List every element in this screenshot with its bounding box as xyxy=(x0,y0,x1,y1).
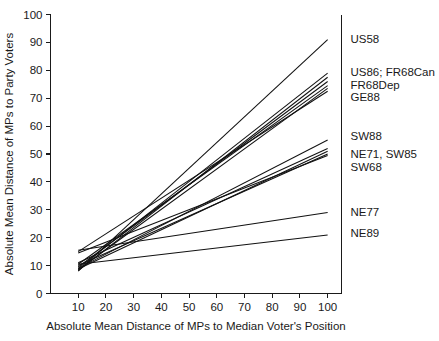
series-line-unlabeled-5 xyxy=(78,155,327,253)
series-label-ge88: GE88 xyxy=(351,91,380,103)
series-line-unlabeled-4 xyxy=(78,151,327,269)
series-label-sw88: SW88 xyxy=(351,130,382,142)
x-tick-labels: 102030405060708090100 xyxy=(72,301,337,313)
series-labels: US58US86; FR68CanFR68DepGE88SW88NE71, SW… xyxy=(351,33,435,239)
series-line-ne71-sw85 xyxy=(78,148,327,262)
y-tick-label: 10 xyxy=(30,260,43,272)
chart-figure: 0102030405060708090100 10203040506070809… xyxy=(0,0,439,341)
series-line-us58 xyxy=(78,40,327,272)
line-chart: 0102030405060708090100 10203040506070809… xyxy=(0,0,439,341)
x-tick-label: 90 xyxy=(294,301,307,313)
y-tick-label: 60 xyxy=(30,120,43,132)
y-axis-title: Absolute Mean Distance of MPs to Party V… xyxy=(3,33,15,276)
series-line-unlabeled-1 xyxy=(78,77,327,270)
x-tick-label: 80 xyxy=(266,301,279,313)
y-tick-label: 20 xyxy=(30,232,43,244)
y-tick-labels: 0102030405060708090100 xyxy=(23,9,42,300)
x-tick-label: 100 xyxy=(318,301,337,313)
x-tick-label: 70 xyxy=(238,301,251,313)
series-lines xyxy=(78,40,327,272)
series-line-unlabeled-2 xyxy=(78,86,327,265)
x-tick-label: 50 xyxy=(183,301,196,313)
x-tick-label: 10 xyxy=(72,301,85,313)
series-label-us86-fr68can: US86; FR68Can xyxy=(351,66,435,78)
axis-frame xyxy=(51,15,342,294)
x-tick-label: 30 xyxy=(127,301,140,313)
y-tick-label: 30 xyxy=(30,204,43,216)
series-label-us58: US58 xyxy=(351,33,380,45)
series-line-ne77 xyxy=(78,213,327,251)
y-tick-label: 50 xyxy=(30,148,43,160)
y-tick-label: 90 xyxy=(30,36,43,48)
y-tick-label: 100 xyxy=(23,9,42,21)
series-label-ne89: NE89 xyxy=(351,227,380,239)
y-tick-label: 0 xyxy=(36,288,42,300)
series-label-ne71-sw85: NE71, SW85 xyxy=(351,148,417,160)
x-tick-label: 20 xyxy=(100,301,113,313)
y-tick-label: 80 xyxy=(30,64,43,76)
x-tick-label: 60 xyxy=(210,301,223,313)
x-axis-title: Absolute Mean Distance of MPs to Median … xyxy=(46,320,345,332)
y-tick-label: 70 xyxy=(30,92,43,104)
series-label-fr68dep: FR68Dep xyxy=(351,79,400,91)
series-label-sw68: SW68 xyxy=(351,161,382,173)
y-tick-label: 40 xyxy=(30,176,43,188)
series-line-unlabeled-3 xyxy=(78,91,327,251)
axis-frame-path xyxy=(51,15,342,294)
x-tick-label: 40 xyxy=(155,301,168,313)
series-label-ne77: NE77 xyxy=(351,206,380,218)
tick-marks xyxy=(46,15,328,299)
